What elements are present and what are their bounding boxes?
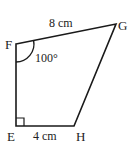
side-label-fg: 8 cm bbox=[49, 16, 73, 30]
angle-label-f: 100° bbox=[35, 51, 58, 65]
vertex-label-e: E bbox=[7, 129, 15, 144]
side-label-eh: 4 cm bbox=[33, 129, 57, 143]
vertex-label-g: G bbox=[118, 18, 127, 33]
vertex-label-h: H bbox=[76, 129, 85, 144]
vertex-label-f: F bbox=[5, 37, 12, 52]
right-angle-marker-e bbox=[16, 118, 24, 126]
quadrilateral-diagram: F G E H 8 cm 4 cm 100° bbox=[0, 0, 138, 146]
quadrilateral-shape bbox=[16, 24, 116, 126]
